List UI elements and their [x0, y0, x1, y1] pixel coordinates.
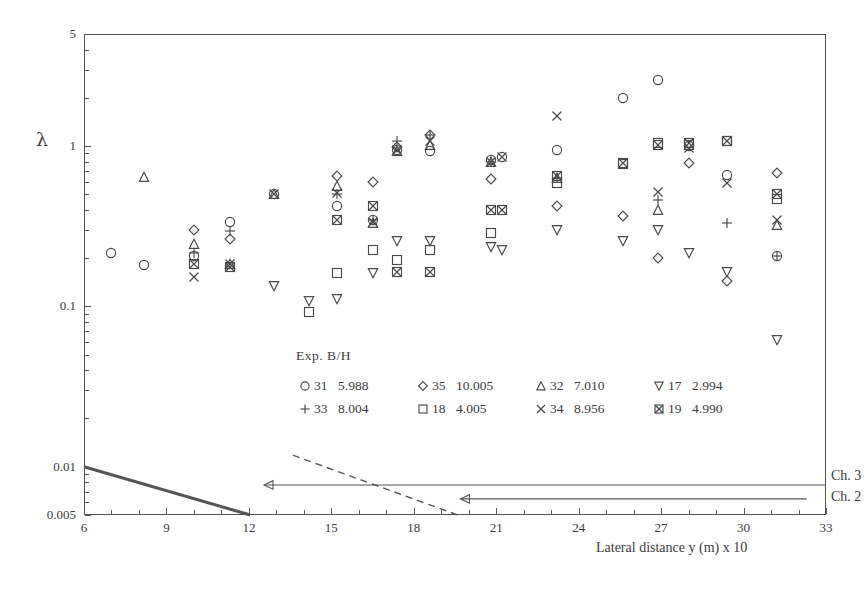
- data-point: [653, 204, 664, 215]
- data-point: [188, 272, 199, 283]
- plus-icon: [296, 404, 314, 414]
- data-point: [106, 248, 117, 259]
- circle-icon: [296, 381, 314, 391]
- data-point: [617, 236, 628, 247]
- data-point: [367, 217, 378, 228]
- data-point: [425, 244, 436, 255]
- data-point: [392, 236, 403, 247]
- x-tick-label: 6: [81, 520, 88, 536]
- x-tick-label: 12: [242, 520, 255, 536]
- legend-entry: 315.988: [296, 378, 414, 394]
- data-point: [496, 151, 507, 162]
- y-tick-label: 0.1: [60, 298, 76, 314]
- legend-entry: 3510.005: [414, 378, 532, 394]
- x-tick-label: 18: [407, 520, 420, 536]
- data-point: [367, 176, 378, 187]
- data-point: [722, 136, 733, 147]
- x-tick-label: 27: [655, 520, 668, 536]
- legend-exp-number: 34: [550, 401, 574, 417]
- data-point: [653, 224, 664, 235]
- data-point: [683, 158, 694, 169]
- data-point: [683, 137, 694, 148]
- data-point: [139, 171, 150, 182]
- data-point: [485, 156, 496, 167]
- data-point: [331, 187, 342, 198]
- data-point: [771, 215, 782, 226]
- data-point: [392, 142, 403, 153]
- data-point: [617, 92, 628, 103]
- y-tick-label: 0.005: [47, 507, 76, 523]
- data-point: [367, 200, 378, 211]
- data-point: [304, 296, 315, 307]
- data-point: [551, 201, 562, 212]
- data-point: [653, 253, 664, 264]
- legend-exp-number: 33: [314, 401, 338, 417]
- y-tick-label: 1: [70, 138, 77, 154]
- legend: Exp. B/H 315.9883510.005327.010172.994 3…: [296, 348, 768, 424]
- data-point: [331, 200, 342, 211]
- legend-entry: 172.994: [650, 378, 768, 394]
- data-point: [617, 211, 628, 222]
- legend-entry: 348.956: [532, 401, 650, 417]
- data-point: [268, 280, 279, 291]
- square-icon: [414, 404, 432, 414]
- x-tick-label: 30: [737, 520, 750, 536]
- legend-title: Exp. B/H: [296, 348, 768, 364]
- data-point: [188, 248, 199, 259]
- y-tick-label: 5: [70, 26, 77, 42]
- data-point: [367, 244, 378, 255]
- triangle-down-icon: [650, 381, 668, 391]
- data-point: [485, 174, 496, 185]
- x-tick-label: 21: [490, 520, 503, 536]
- data-point: [224, 262, 235, 273]
- data-point: [188, 224, 199, 235]
- data-point: [485, 228, 496, 239]
- x-tick-label: 9: [163, 520, 170, 536]
- data-point: [617, 158, 628, 169]
- legend-bh-value: 4.990: [692, 401, 722, 417]
- data-point: [722, 266, 733, 277]
- legend-row: 338.004184.005348.956194.990: [296, 401, 768, 417]
- data-point: [551, 110, 562, 121]
- legend-exp-number: 32: [550, 378, 574, 394]
- cross-icon: [532, 404, 550, 414]
- legend-exp-number: 19: [668, 401, 692, 417]
- data-point: [331, 171, 342, 182]
- legend-exp-number: 31: [314, 378, 338, 394]
- y-tick-label: 0.01: [53, 459, 76, 475]
- data-point: [224, 233, 235, 244]
- y-tick-minor: [85, 515, 89, 516]
- data-point: [551, 170, 562, 181]
- data-point: [771, 251, 782, 262]
- legend-entry: 194.990: [650, 401, 768, 417]
- data-point: [551, 224, 562, 235]
- data-point: [367, 267, 378, 278]
- data-point: [653, 140, 664, 151]
- legend-entry: 327.010: [532, 378, 650, 394]
- triangle-up-icon: [532, 381, 550, 391]
- legend-entry: 184.005: [414, 401, 532, 417]
- figure-container: λ Lateral distance y (m) x 10 6912151821…: [0, 0, 867, 599]
- data-point: [722, 218, 733, 229]
- legend-entry: 338.004: [296, 401, 414, 417]
- data-point: [722, 178, 733, 189]
- data-point: [771, 189, 782, 200]
- data-point: [139, 260, 150, 271]
- data-point: [304, 307, 315, 318]
- plot-area: 691215182124273033 0.0050.010.115: [84, 34, 826, 515]
- legend-exp-number: 17: [668, 378, 692, 394]
- x-axis-label: Lateral distance y (m) x 10: [596, 540, 747, 556]
- data-point: [331, 267, 342, 278]
- data-point: [485, 204, 496, 215]
- data-point: [653, 74, 664, 85]
- ch3-annotation-label: Ch. 3: [831, 468, 861, 484]
- legend-bh-value: 2.994: [692, 378, 722, 394]
- x-tick: [826, 508, 827, 514]
- data-point: [268, 189, 279, 200]
- legend-bh-value: 4.005: [456, 401, 486, 417]
- legend-bh-value: 8.004: [338, 401, 368, 417]
- data-point: [496, 204, 507, 215]
- legend-bh-value: 7.010: [574, 378, 604, 394]
- data-point: [425, 129, 436, 140]
- diamond-icon: [414, 381, 432, 391]
